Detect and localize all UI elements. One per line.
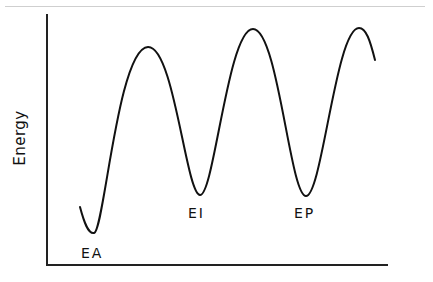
energy-curve-path bbox=[80, 28, 375, 233]
label-ea: EA bbox=[81, 245, 103, 261]
label-ep: EP bbox=[294, 205, 315, 221]
energy-curve bbox=[0, 0, 433, 282]
label-ei: EI bbox=[188, 205, 205, 221]
